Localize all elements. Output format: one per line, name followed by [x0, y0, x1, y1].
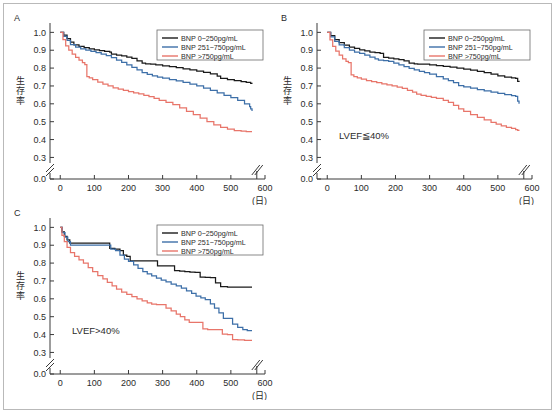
x-tick-label: 400: [189, 183, 204, 193]
legend-label: BNP 251~750pg/mL: [448, 43, 513, 52]
y-tick-label: 0.6: [33, 99, 46, 109]
x-tick-label: 400: [189, 378, 204, 388]
y-tick-label: 1.0: [300, 28, 313, 38]
y-tick-label: 0.9: [300, 45, 313, 55]
y-axis-label: 生: [283, 75, 292, 86]
x-tick-label: 200: [388, 183, 403, 193]
x-tick-label: 0: [58, 183, 63, 193]
y-tick-label: 0.7: [33, 276, 46, 286]
y-tick-label: 0.4: [33, 135, 46, 145]
x-tick-label: 600: [257, 183, 272, 193]
legend-label: BNP >750pg/mL: [448, 52, 501, 61]
y-tick-label: 0.5: [300, 117, 313, 127]
legend-label: BNP 0~250pg/mL: [181, 34, 238, 43]
legend-label: BNP 0~250pg/mL: [448, 34, 505, 43]
y-tick-label: 0.3: [33, 348, 46, 358]
y-axis-label: 生: [16, 75, 25, 86]
x-axis-label: (日): [252, 391, 267, 400]
y-tick-label: 0.9: [33, 240, 46, 250]
x-tick-label: 600: [257, 378, 272, 388]
y-tick-label: 0.4: [33, 330, 46, 340]
panel-b: B0.00.30.40.50.60.70.80.91.0010020030040…: [279, 9, 544, 205]
x-tick-label: 100: [354, 183, 369, 193]
y-tick-label: 0.3: [300, 153, 313, 163]
y-tick-label: 0.6: [300, 99, 313, 109]
panel-letter: C: [14, 208, 21, 218]
x-tick-label: 200: [121, 378, 136, 388]
y-tick-label: 0.3: [33, 153, 46, 163]
x-tick-label: 300: [422, 183, 437, 193]
panel-letter: B: [281, 13, 287, 23]
panel-a: A0.00.30.40.50.60.70.80.91.0010020030040…: [12, 9, 277, 205]
y-axis-label: 率: [16, 95, 25, 106]
x-tick-label: 100: [87, 183, 102, 193]
x-tick-label: 500: [223, 378, 238, 388]
y-tick-label: 0.8: [300, 63, 313, 73]
panel-c: C0.00.30.40.50.60.70.80.91.0010020030040…: [12, 204, 277, 404]
y-tick-label: 0.0: [33, 174, 46, 184]
y-tick-label: 1.0: [33, 28, 46, 38]
y-tick-label: 0.7: [300, 81, 313, 91]
x-tick-label: 300: [155, 378, 170, 388]
y-axis-label: 率: [283, 95, 292, 106]
x-tick-label: 600: [524, 183, 539, 193]
x-tick-label: 400: [456, 183, 471, 193]
legend-label: BNP >750pg/mL: [181, 247, 234, 256]
y-axis-label: 存: [16, 85, 25, 96]
x-tick-label: 100: [87, 378, 102, 388]
lvef-annotation: LVEF>40%: [72, 325, 120, 336]
y-axis-label: 存: [16, 280, 25, 291]
x-tick-label: 500: [490, 183, 505, 193]
x-tick-label: 0: [58, 378, 63, 388]
y-tick-label: 0.0: [33, 369, 46, 379]
x-tick-label: 300: [155, 183, 170, 193]
plot-area: B0.00.30.40.50.60.70.80.91.0010020030040…: [279, 9, 544, 205]
x-tick-label: 0: [325, 183, 330, 193]
x-axis-label: (日): [519, 196, 534, 205]
legend-label: BNP 251~750pg/mL: [181, 43, 246, 52]
panel-letter: A: [14, 13, 20, 23]
lvef-annotation: LVEF≦40%: [339, 130, 390, 141]
x-tick-label: 200: [121, 183, 136, 193]
legend-label: BNP 0~250pg/mL: [181, 229, 238, 238]
figure-frame: A0.00.30.40.50.60.70.80.91.0010020030040…: [3, 3, 552, 410]
legend-label: BNP 251~750pg/mL: [181, 238, 246, 247]
plot-area: A0.00.30.40.50.60.70.80.91.0010020030040…: [12, 9, 277, 205]
y-tick-label: 0.0: [300, 174, 313, 184]
y-axis-label: 率: [16, 290, 25, 301]
y-tick-label: 1.0: [33, 223, 46, 233]
y-tick-label: 0.4: [300, 135, 313, 145]
legend-label: BNP >750pg/mL: [181, 52, 234, 61]
y-tick-label: 0.9: [33, 45, 46, 55]
x-tick-label: 500: [223, 183, 238, 193]
y-axis-label: 生: [16, 270, 25, 281]
plot-area: C0.00.30.40.50.60.70.80.91.0010020030040…: [12, 204, 277, 400]
y-tick-label: 0.5: [33, 312, 46, 322]
y-tick-label: 0.6: [33, 294, 46, 304]
y-tick-label: 0.8: [33, 63, 46, 73]
y-axis-label: 存: [283, 85, 292, 96]
y-tick-label: 0.7: [33, 81, 46, 91]
y-tick-label: 0.5: [33, 117, 46, 127]
y-tick-label: 0.8: [33, 258, 46, 268]
